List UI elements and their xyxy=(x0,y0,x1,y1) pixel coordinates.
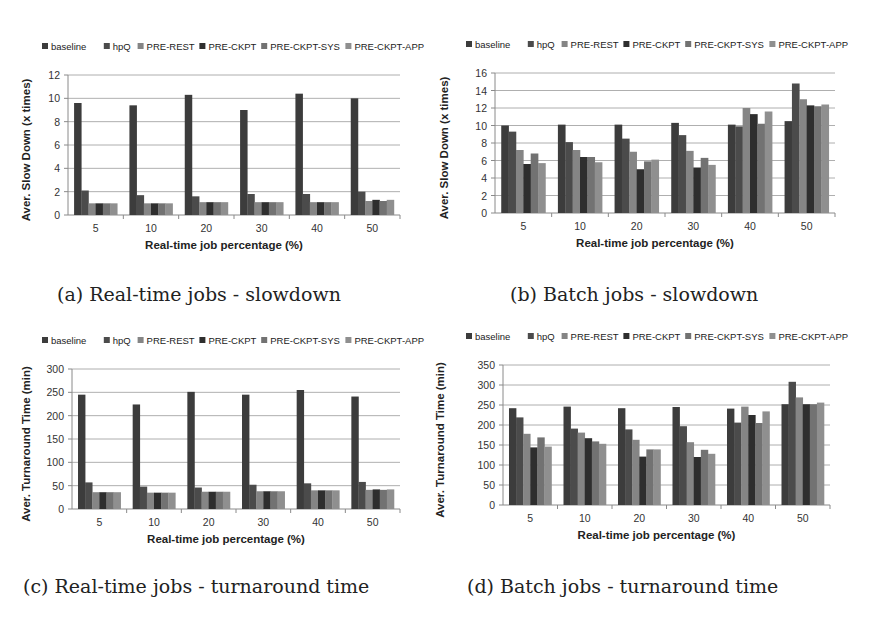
legend-item: PRE-CKPT-APP xyxy=(769,331,848,342)
legend-item: PRE-CKPT-APP xyxy=(345,41,424,52)
x-tick-label: 50 xyxy=(366,222,378,234)
legend-swatch xyxy=(104,337,110,343)
bar-group xyxy=(297,390,340,509)
legend-item: PRE-CKPT-SYS xyxy=(261,335,340,346)
bar-pre-ckpt-app xyxy=(165,203,172,215)
bar-pre-ckpt-app xyxy=(331,202,338,215)
chart-a: baselinehpQPRE-RESTPRE-CKPTPRE-CKPT-SYSP… xyxy=(0,0,438,270)
legend-label: PRE-REST xyxy=(147,41,195,52)
bar-pre-ckpt xyxy=(317,202,324,215)
legend-label: PRE-CKPT xyxy=(632,39,680,50)
bar-group xyxy=(185,95,228,215)
bar-pre-rest xyxy=(92,492,99,509)
legend-item: PRE-CKPT xyxy=(623,331,680,342)
bar-pre-ckpt-sys xyxy=(380,490,387,509)
y-tick-label: 4 xyxy=(481,172,487,184)
legend-swatch xyxy=(138,337,144,343)
legend: baselinehpQPRE-RESTPRE-CKPTPRE-CKPT-SYSP… xyxy=(42,335,424,346)
bar-pre-rest xyxy=(743,108,751,213)
bar-baseline xyxy=(558,125,566,213)
caption-c: (c) Real-time jobs - turnaround time xyxy=(23,575,369,597)
bar-hpq xyxy=(140,487,147,509)
bar-baseline xyxy=(501,126,509,214)
bar-hpq xyxy=(304,483,311,509)
x-tick-label: 30 xyxy=(256,222,268,234)
bar-group xyxy=(615,125,660,213)
bar-pre-rest xyxy=(88,203,95,215)
legend-item: PRE-REST xyxy=(562,39,619,50)
x-tick-label: 20 xyxy=(631,220,643,232)
legend-label: baseline xyxy=(475,39,510,50)
bar-hpq xyxy=(679,135,687,213)
bar-baseline xyxy=(727,409,734,505)
legend-label: PRE-CKPT-APP xyxy=(778,331,848,342)
y-tick-label: 200 xyxy=(477,419,495,431)
legend-label: baseline xyxy=(475,331,510,342)
bar-hpq xyxy=(680,426,687,505)
legend: baselinehpQPRE-RESTPRE-CKPTPRE-CKPT-SYSP… xyxy=(466,331,848,342)
bar-pre-ckpt-sys xyxy=(644,161,652,213)
bar-pre-ckpt xyxy=(318,490,325,509)
legend-label: PRE-CKPT-APP xyxy=(354,335,424,346)
bar-baseline xyxy=(785,121,793,213)
bar-group xyxy=(563,407,606,505)
bar-pre-ckpt xyxy=(154,493,161,509)
bar-baseline xyxy=(297,390,304,509)
legend-swatch xyxy=(199,43,205,49)
x-tick-label: 40 xyxy=(311,222,323,234)
caption-a: (a) Real-time jobs - slowdown xyxy=(57,283,341,305)
legend-swatch xyxy=(104,43,110,49)
y-tick-label: 2 xyxy=(481,190,487,202)
bar-pre-ckpt-sys xyxy=(269,202,276,215)
y-tick-label: 250 xyxy=(46,386,64,398)
bar-group xyxy=(242,395,285,509)
bar-group xyxy=(74,103,117,215)
bar-pre-ckpt-sys xyxy=(587,157,595,213)
x-tick-label: 10 xyxy=(579,512,591,524)
chart-c: baselinehpQPRE-RESTPRE-CKPTPRE-CKPT-SYSP… xyxy=(0,320,438,570)
x-tick-label: 50 xyxy=(367,516,379,528)
bar-hpq xyxy=(249,485,256,509)
x-tick-label: 5 xyxy=(96,516,102,528)
bar-pre-rest xyxy=(199,202,206,215)
bar-pre-ckpt xyxy=(637,169,645,213)
bar-hpq xyxy=(516,417,523,505)
bar-pre-ckpt xyxy=(151,203,158,215)
bar-pre-ckpt-app xyxy=(651,160,659,213)
bar-pre-ckpt-sys xyxy=(531,154,539,214)
bar-pre-rest xyxy=(523,434,530,505)
x-tick-label: 40 xyxy=(744,220,756,232)
y-axis-title: Aver. Slow Down (x times) xyxy=(20,78,32,221)
y-tick-label: 300 xyxy=(46,363,64,375)
bar-pre-ckpt-app xyxy=(387,200,394,215)
x-axis-title: Real-time job percentage (%) xyxy=(576,237,734,249)
x-tick-label: 20 xyxy=(203,516,215,528)
y-tick-label: 0 xyxy=(481,207,487,219)
legend-label: baseline xyxy=(51,335,86,346)
bar-pre-ckpt-app xyxy=(278,491,285,509)
bar-baseline xyxy=(618,408,625,505)
bar-pre-ckpt-sys xyxy=(216,492,223,509)
legend-item: hpQ xyxy=(104,335,131,346)
legend-label: PRE-CKPT-SYS xyxy=(270,41,340,52)
legend-swatch xyxy=(345,337,351,343)
bar-pre-ckpt xyxy=(580,157,588,213)
chart-panel-a: baselinehpQPRE-RESTPRE-CKPTPRE-CKPT-SYSP… xyxy=(0,0,438,270)
bar-pre-ckpt-sys xyxy=(103,203,110,215)
chart-d: baselinehpQPRE-RESTPRE-CKPTPRE-CKPT-SYSP… xyxy=(438,320,876,570)
legend-swatch xyxy=(769,41,775,47)
bar-hpq xyxy=(565,142,573,213)
legend-swatch xyxy=(42,43,48,49)
legend-item: baseline xyxy=(42,335,86,346)
x-tick-label: 10 xyxy=(574,220,586,232)
y-tick-label: 8 xyxy=(481,137,487,149)
bar-pre-ckpt xyxy=(372,200,379,215)
legend-item: PRE-CKPT-SYS xyxy=(685,331,764,342)
bar-pre-ckpt-sys xyxy=(701,158,709,213)
bar-pre-rest xyxy=(578,433,585,505)
bar-baseline xyxy=(509,408,516,505)
bar-pre-rest xyxy=(144,203,151,215)
legend-label: hpQ xyxy=(113,41,131,52)
bar-group xyxy=(509,408,552,505)
bar-pre-ckpt-app xyxy=(332,490,339,509)
